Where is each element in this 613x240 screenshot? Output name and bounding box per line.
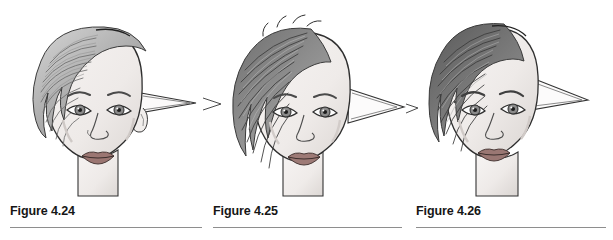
caption-row: Figure 4.24 Figure 4.25 Figure 4.26 [0,200,613,240]
caption-rule-4-25 [213,227,402,228]
figure-panel-4-26 [406,0,611,200]
elf-head-drawing-3 [406,0,611,200]
caption-figure-4-25: Figure 4.25 [203,200,408,240]
figure-panel-4-24 [0,0,205,200]
caption-label-4-24: Figure 4.24 [10,204,75,218]
beauty-mark [454,101,457,104]
elf-head-drawing-2 [203,0,408,200]
caption-label-4-26: Figure 4.26 [416,204,481,218]
caption-rule-4-24 [10,227,202,228]
caption-figure-4-24: Figure 4.24 [0,200,205,240]
caption-rule-4-26 [416,227,606,228]
figure-panel-4-25 [203,0,408,200]
figure-panels-row [0,0,613,200]
caption-figure-4-26: Figure 4.26 [406,200,613,240]
figure-plate: Figure 4.24 Figure 4.25 Figure 4.26 [0,0,613,240]
caption-label-4-25: Figure 4.25 [213,204,278,218]
elf-head-drawing-1 [0,0,205,200]
